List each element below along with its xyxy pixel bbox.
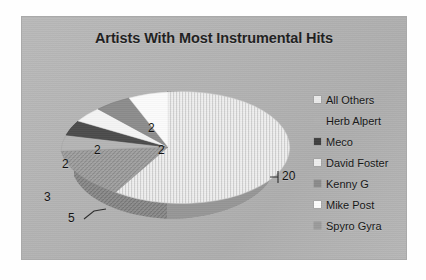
chart-panel: Artists With Most Instrumental Hits	[22, 17, 406, 259]
data-label-kenny-g: 2	[94, 143, 101, 157]
legend-item-spyro-gyra[interactable]: Spyro Gyra	[314, 215, 406, 236]
legend-label-david-foster: David Foster	[326, 157, 388, 169]
legend-item-meco[interactable]: Meco	[314, 131, 406, 152]
legend-swatch-spyro-gyra	[314, 222, 321, 229]
leader-line-spyro-gyra	[84, 209, 106, 219]
screenshot-root: Artists With Most Instrumental Hits	[0, 0, 426, 280]
legend-label-herb-alpert: Herb Alpert	[326, 115, 381, 127]
chart-legend: All Others Herb Alpert Meco David Foster…	[314, 89, 406, 236]
data-label-all-others: 20	[282, 169, 295, 183]
data-label-david-foster: 2	[158, 143, 165, 157]
legend-swatch-david-foster	[314, 159, 321, 166]
pie-chart: 2 2 2 2 3 5 20	[32, 59, 292, 249]
legend-swatch-meco	[314, 138, 321, 145]
data-label-meco: 2	[62, 157, 69, 171]
legend-item-all-others[interactable]: All Others	[314, 89, 406, 110]
legend-label-meco: Meco	[326, 136, 353, 148]
legend-item-kenny-g[interactable]: Kenny G	[314, 173, 406, 194]
legend-item-david-foster[interactable]: David Foster	[314, 152, 406, 173]
data-label-mike-post: 2	[148, 121, 155, 135]
legend-label-spyro-gyra: Spyro Gyra	[326, 220, 382, 232]
legend-swatch-kenny-g	[314, 180, 321, 187]
legend-item-mike-post[interactable]: Mike Post	[314, 194, 406, 215]
legend-label-kenny-g: Kenny G	[326, 178, 369, 190]
legend-label-mike-post: Mike Post	[326, 199, 374, 211]
chart-title: Artists With Most Instrumental Hits	[22, 30, 406, 46]
data-label-herb-alpert: 3	[44, 190, 51, 204]
data-label-spyro-gyra: 5	[68, 211, 75, 225]
legend-swatch-mike-post	[314, 201, 321, 208]
legend-swatch-all-others	[314, 96, 321, 103]
legend-label-all-others: All Others	[326, 94, 374, 106]
legend-item-herb-alpert[interactable]: Herb Alpert	[314, 110, 406, 131]
legend-swatch-herb-alpert	[314, 117, 321, 124]
